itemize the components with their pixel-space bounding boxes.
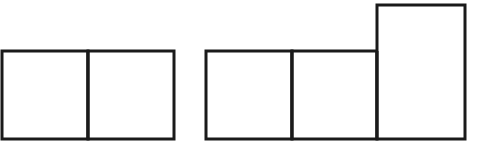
group-right-tromino — [206, 5, 465, 139]
geometry-diagram — [0, 0, 487, 163]
left-cell-2 — [88, 51, 174, 139]
group-left-domino — [2, 51, 174, 139]
left-cell-1 — [2, 51, 88, 139]
right-cell-3-tall — [377, 5, 465, 139]
right-cell-1 — [206, 51, 292, 139]
right-cell-2 — [292, 51, 377, 139]
figure-canvas — [0, 0, 487, 163]
